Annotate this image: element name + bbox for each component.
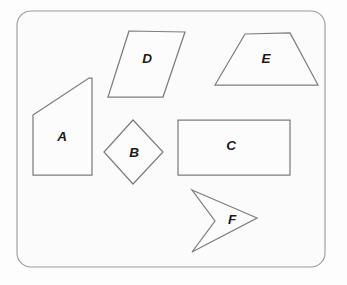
- shape-label-c: C: [226, 138, 236, 153]
- shape-label-d: D: [142, 51, 152, 66]
- worksheet-canvas: ABCDEF: [0, 0, 347, 285]
- shape-label-e: E: [261, 51, 271, 66]
- shape-label-f: F: [228, 212, 237, 227]
- shapes-diagram: ABCDEF: [0, 0, 347, 285]
- shape-label-a: A: [56, 129, 67, 144]
- shape-label-b: B: [129, 145, 139, 160]
